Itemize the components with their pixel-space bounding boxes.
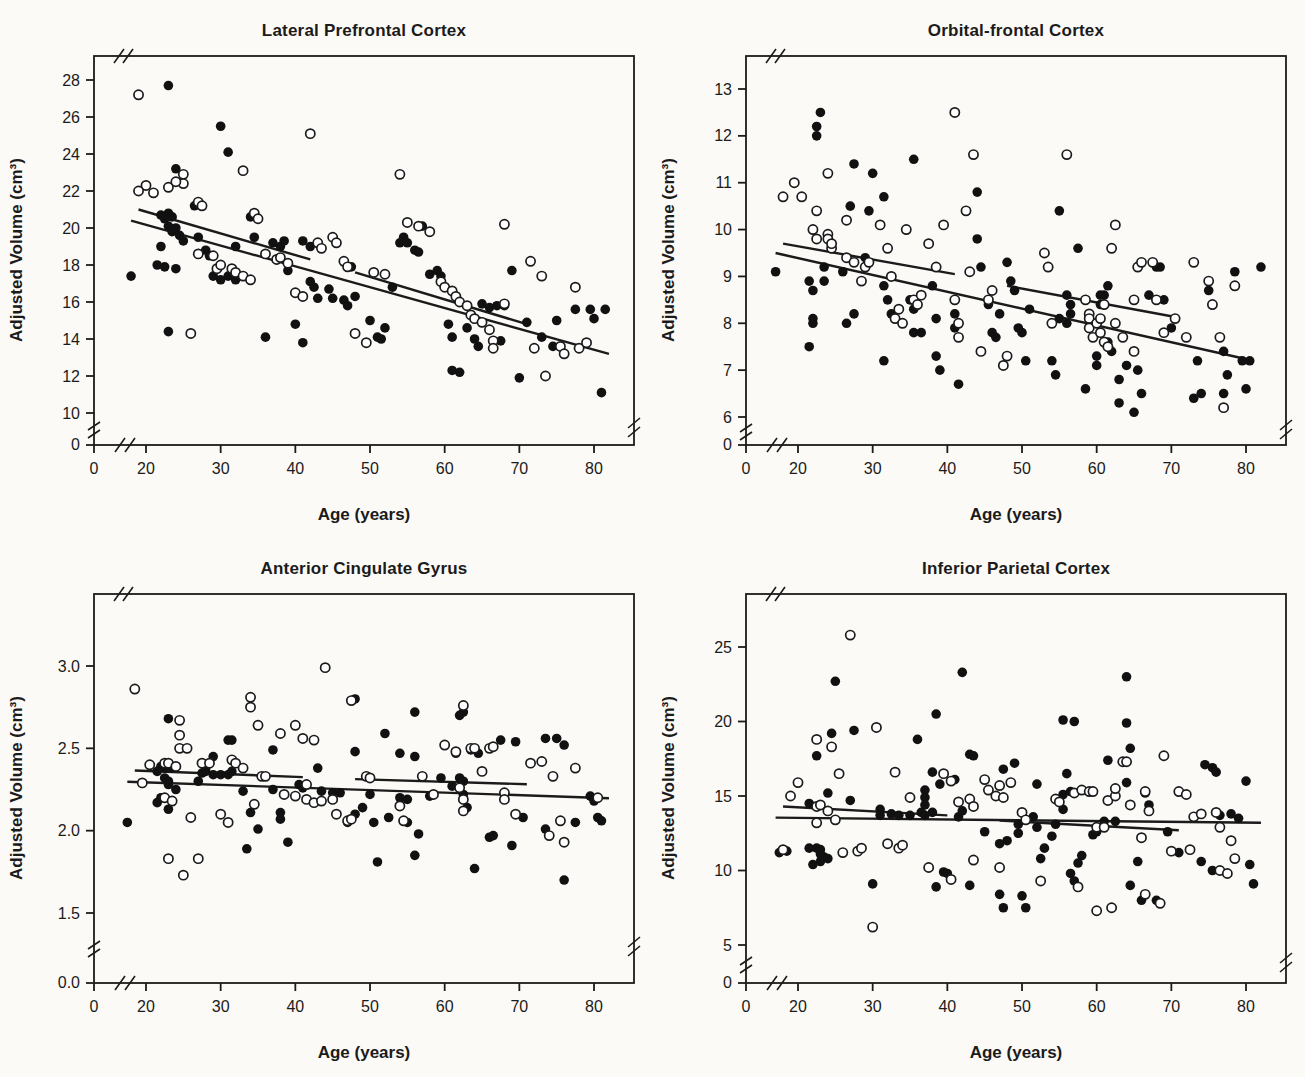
data-point-filled <box>410 707 420 717</box>
data-point-open <box>369 268 378 277</box>
data-point-filled <box>350 747 360 757</box>
data-point-filled <box>849 159 859 169</box>
data-point-open <box>328 795 337 804</box>
data-point-open <box>365 773 374 782</box>
data-point-open <box>1044 262 1053 271</box>
data-point-open <box>946 875 955 884</box>
data-point-open <box>1204 277 1213 286</box>
data-point-filled <box>597 388 607 398</box>
data-point-filled <box>905 811 915 821</box>
data-point-filled <box>849 309 859 319</box>
data-point-open <box>489 742 498 751</box>
data-point-open <box>171 762 180 771</box>
data-point-open <box>1006 778 1015 787</box>
data-point-filled <box>823 788 833 798</box>
data-point-open <box>545 831 554 840</box>
data-point-filled <box>365 790 375 800</box>
data-point-filled <box>1241 384 1251 394</box>
data-point-filled <box>999 903 1009 913</box>
data-point-filled <box>920 800 930 810</box>
data-point-open <box>343 262 352 271</box>
data-point-open <box>380 270 389 279</box>
data-point-open <box>969 855 978 864</box>
x-tick-label: 30 <box>212 998 230 1015</box>
data-point-filled <box>216 121 226 131</box>
data-point-filled <box>1010 286 1020 296</box>
data-point-open <box>913 300 922 309</box>
data-point-filled <box>291 319 301 329</box>
y-axis-label: Adjusted Volume (cm³) <box>659 158 678 342</box>
data-point-filled <box>935 365 945 375</box>
data-point-open <box>1141 787 1150 796</box>
data-point-filled <box>249 232 259 242</box>
data-point-filled <box>1103 281 1113 291</box>
data-point-filled <box>845 796 855 806</box>
data-point-filled <box>1013 828 1023 838</box>
x-tick-label: 60 <box>1088 998 1106 1015</box>
data-point-filled <box>223 147 233 157</box>
data-point-open <box>1156 899 1165 908</box>
data-point-open <box>1096 314 1105 323</box>
data-point-open <box>883 839 892 848</box>
data-point-open <box>246 693 255 702</box>
data-point-filled <box>1066 309 1076 319</box>
y-tick-label: 28 <box>62 72 80 89</box>
data-point-open <box>477 318 486 327</box>
data-point-open <box>526 257 535 266</box>
data-point-open <box>582 338 591 347</box>
data-point-filled <box>1002 836 1012 846</box>
axes: 0203040506070803.02.52.01.50.0 <box>58 594 634 1015</box>
data-point-open <box>995 781 1004 790</box>
data-point-open <box>812 234 821 243</box>
data-point-filled <box>816 108 826 118</box>
data-point-open <box>1096 328 1105 337</box>
data-point-filled <box>571 818 581 828</box>
y-tick-label: 5 <box>723 937 732 954</box>
data-point-filled <box>358 803 368 813</box>
data-point-open <box>556 816 565 825</box>
data-point-open <box>842 216 851 225</box>
data-point-filled <box>849 726 859 736</box>
data-point-filled <box>388 282 398 292</box>
data-point-filled <box>444 319 454 329</box>
data-point-open <box>276 729 285 738</box>
data-point-filled <box>838 267 848 277</box>
data-point-filled <box>1122 361 1132 371</box>
data-point-filled <box>403 238 413 248</box>
data-point-filled <box>1114 398 1124 408</box>
data-point-open <box>1197 809 1206 818</box>
data-point-open <box>250 800 259 809</box>
data-point-filled <box>410 752 420 762</box>
data-point-filled <box>976 262 986 272</box>
data-point-open <box>145 760 154 769</box>
data-point-filled <box>804 276 814 286</box>
data-point-filled <box>950 309 960 319</box>
data-point-open <box>1092 906 1101 915</box>
x-tick-label: 50 <box>361 998 379 1015</box>
data-point-filled <box>1125 744 1135 754</box>
data-point-open <box>946 777 955 786</box>
data-point-filled <box>507 841 517 851</box>
x-tick-label: 70 <box>1162 460 1180 477</box>
data-point-filled <box>868 169 878 179</box>
data-point-filled <box>1133 857 1143 867</box>
data-point-open <box>1212 808 1221 817</box>
data-point-open <box>209 251 218 260</box>
data-point-filled <box>1032 822 1042 832</box>
data-point-filled <box>261 332 271 342</box>
data-point-filled <box>1196 389 1206 399</box>
data-point-open <box>984 295 993 304</box>
data-point-filled <box>589 314 599 324</box>
data-point-filled <box>1073 244 1083 254</box>
panel-title: Anterior Cingulate Gyrus <box>261 559 468 578</box>
data-point-open <box>898 319 907 328</box>
data-point-filled <box>268 785 278 795</box>
y-axis-label: Adjusted Volume (cm³) <box>7 696 26 880</box>
data-point-open <box>1182 790 1191 799</box>
data-point-filled <box>537 332 547 342</box>
data-point-filled <box>1234 814 1244 824</box>
data-point-filled <box>470 864 480 874</box>
data-point-open <box>988 286 997 295</box>
data-point-open <box>350 329 359 338</box>
data-point-filled <box>1025 304 1035 314</box>
